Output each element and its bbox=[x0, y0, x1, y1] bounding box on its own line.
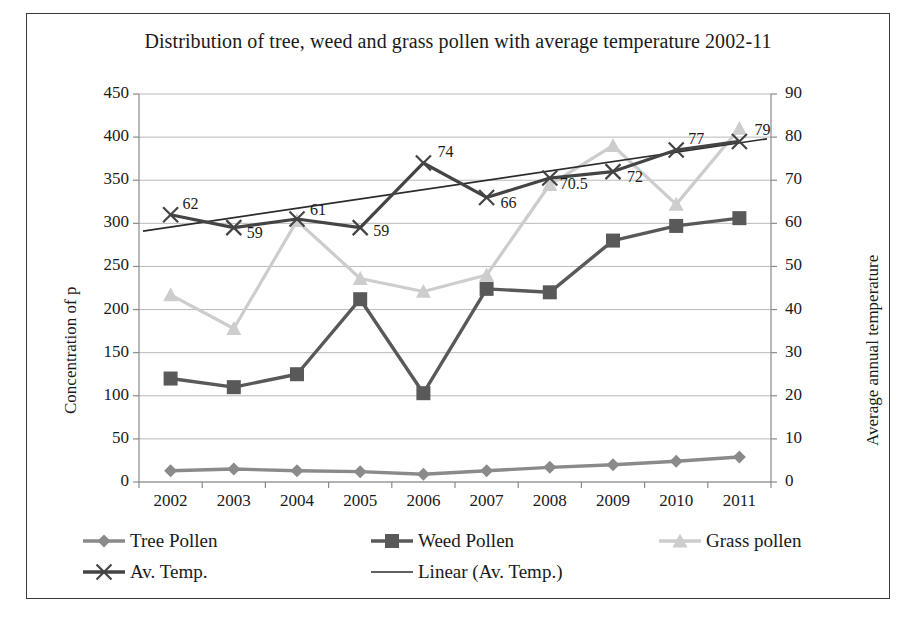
diamond-marker bbox=[227, 463, 240, 476]
data-point-diamond bbox=[354, 465, 367, 478]
legend-swatch-diamond-icon bbox=[81, 530, 127, 552]
triangle-marker bbox=[606, 138, 621, 152]
diamond-marker bbox=[98, 535, 111, 548]
square-marker bbox=[290, 367, 304, 381]
triangle-marker bbox=[163, 287, 178, 301]
y-axis-right-tick-label: 20 bbox=[785, 385, 825, 405]
series-layer bbox=[143, 121, 767, 481]
square-marker bbox=[606, 234, 620, 248]
legend-item-av-temp[interactable]: Av. Temp. bbox=[81, 557, 207, 587]
x-axis-tick-label: 2003 bbox=[203, 491, 265, 511]
data-point-label: 79 bbox=[754, 121, 770, 139]
y-axis-right-tick-label: 0 bbox=[785, 471, 825, 491]
data-point-label: 59 bbox=[247, 224, 263, 242]
y-axis-right-tick-label: 10 bbox=[785, 428, 825, 448]
data-point-square bbox=[227, 380, 241, 394]
legend-label: Av. Temp. bbox=[130, 561, 207, 583]
square-marker bbox=[732, 211, 746, 225]
data-point-label: 77 bbox=[688, 130, 704, 148]
y-axis-left-tick-label: 400 bbox=[67, 126, 129, 146]
data-point-label: 74 bbox=[437, 143, 453, 161]
legend-label: Tree Pollen bbox=[130, 530, 217, 552]
data-point-square bbox=[732, 211, 746, 225]
x-axis-tick-label: 2009 bbox=[582, 491, 644, 511]
y-axis-right-tick-label: 90 bbox=[785, 83, 825, 103]
y-axis-right-tick-label: 70 bbox=[785, 169, 825, 189]
x-axis-tick-label: 2007 bbox=[456, 491, 518, 511]
diamond-marker bbox=[480, 464, 493, 477]
square-marker bbox=[227, 380, 241, 394]
legend-label: Weed Pollen bbox=[418, 530, 514, 552]
plot-svg bbox=[139, 94, 771, 482]
diamond-marker bbox=[607, 458, 620, 471]
square-marker bbox=[480, 282, 494, 296]
y-axis-right-tick-label: 50 bbox=[785, 255, 825, 275]
data-point-square bbox=[669, 219, 683, 233]
y-axis-right-tick-label: 30 bbox=[785, 342, 825, 362]
legend-swatch-square-icon bbox=[369, 530, 415, 552]
y-axis-right-title: Average annual temperature bbox=[863, 255, 883, 446]
data-point-triangle bbox=[732, 121, 747, 135]
triangle-marker bbox=[226, 321, 241, 335]
data-point-diamond bbox=[733, 450, 746, 463]
legend-item-weed-pollen[interactable]: Weed Pollen bbox=[369, 526, 514, 556]
square-marker bbox=[543, 285, 557, 299]
data-point-diamond bbox=[543, 461, 556, 474]
data-point-square bbox=[164, 372, 178, 386]
x-tick-marks bbox=[139, 482, 771, 488]
legend-swatch-x-icon bbox=[81, 561, 127, 583]
data-point-triangle bbox=[226, 321, 241, 335]
square-marker bbox=[385, 534, 399, 548]
data-point-square bbox=[606, 234, 620, 248]
y-axis-left-tick-label: 300 bbox=[67, 212, 129, 232]
diamond-marker bbox=[733, 450, 746, 463]
data-point-label: 70.5 bbox=[560, 175, 588, 193]
data-point-diamond bbox=[98, 535, 111, 548]
data-point-square bbox=[353, 292, 367, 306]
triangle-marker bbox=[732, 121, 747, 135]
y-axis-right-tick-label: 60 bbox=[785, 212, 825, 232]
legend-item-tree-pollen[interactable]: Tree Pollen bbox=[81, 526, 217, 556]
data-point-diamond bbox=[670, 455, 683, 468]
y-tick-marks-left bbox=[133, 94, 139, 482]
data-point-label: 66 bbox=[501, 194, 517, 212]
x-axis-tick-label: 2010 bbox=[645, 491, 707, 511]
square-marker bbox=[164, 372, 178, 386]
square-marker bbox=[416, 386, 430, 400]
x-axis-tick-label: 2011 bbox=[708, 491, 770, 511]
chart-title: Distribution of tree, weed and grass pol… bbox=[27, 30, 889, 53]
data-point-diamond bbox=[417, 468, 430, 481]
data-point-x bbox=[416, 155, 431, 170]
data-point-square bbox=[416, 386, 430, 400]
data-point-diamond bbox=[227, 463, 240, 476]
x-axis-tick-label: 2008 bbox=[519, 491, 581, 511]
plot-area bbox=[139, 94, 771, 482]
data-point-square bbox=[290, 367, 304, 381]
data-point-diamond bbox=[480, 464, 493, 477]
data-point-triangle bbox=[606, 138, 621, 152]
legend-item-grass-pollen[interactable]: Grass pollen bbox=[657, 526, 802, 556]
legend-row-top: Tree PollenWeed PollenGrass pollen bbox=[81, 526, 841, 556]
data-point-label: 61 bbox=[310, 201, 326, 219]
y-axis-left-title: Concentration of p bbox=[61, 287, 81, 414]
data-point-label: 59 bbox=[373, 222, 389, 240]
legend-item-linear-av-temp[interactable]: Linear (Av. Temp.) bbox=[369, 557, 562, 587]
legend-row-bottom: Av. Temp.Linear (Av. Temp.) bbox=[81, 557, 841, 587]
y-axis-left-tick-label: 450 bbox=[67, 83, 129, 103]
diamond-marker bbox=[543, 461, 556, 474]
y-axis-right-tick-label: 40 bbox=[785, 299, 825, 319]
data-point-square bbox=[543, 285, 557, 299]
y-axis-right-tick-label: 80 bbox=[785, 126, 825, 146]
data-point-square bbox=[385, 534, 399, 548]
data-point-square bbox=[480, 282, 494, 296]
diamond-marker bbox=[354, 465, 367, 478]
square-marker bbox=[353, 292, 367, 306]
y-axis-left-tick-label: 50 bbox=[67, 428, 129, 448]
y-axis-left-tick-label: 250 bbox=[67, 255, 129, 275]
data-point-label: 72 bbox=[627, 168, 643, 186]
y-axis-left-tick-label: 350 bbox=[67, 169, 129, 189]
chart-frame: Distribution of tree, weed and grass pol… bbox=[26, 13, 890, 599]
series-line bbox=[171, 457, 740, 474]
legend-label: Linear (Av. Temp.) bbox=[418, 561, 562, 583]
legend-swatch-none-icon bbox=[369, 561, 415, 583]
